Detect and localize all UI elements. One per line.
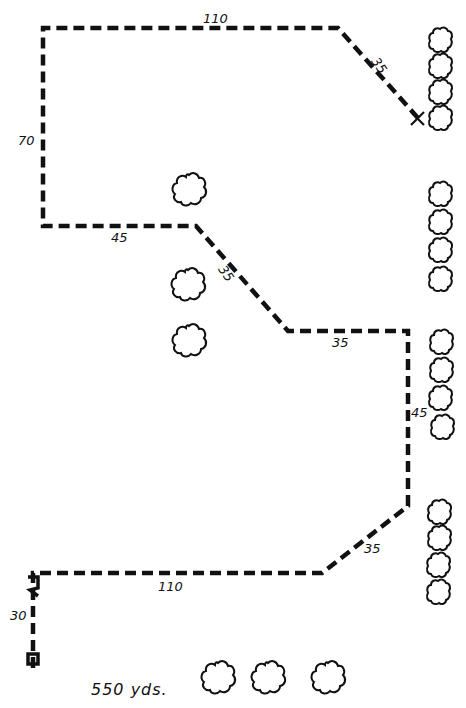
- tree-icon: [429, 182, 452, 207]
- segment-label-5: 35: [332, 335, 349, 350]
- tree-icon: [428, 500, 451, 525]
- tree-icon: [429, 210, 452, 235]
- tree-group-right-bottom: [427, 500, 451, 605]
- segment-label-9: 110: [203, 11, 228, 26]
- tree-icon: [429, 267, 452, 292]
- segment-label-3: 35: [364, 541, 381, 556]
- x-mark-icon: [411, 112, 424, 125]
- segment-label-8: 70: [18, 133, 35, 148]
- segment-label-7: 45: [111, 230, 128, 245]
- segment-label-2: 110: [158, 579, 183, 594]
- route-diagram: [0, 0, 466, 708]
- segment-label-4: 45: [411, 405, 428, 420]
- tree-icon: [431, 415, 454, 440]
- tree-icon: [252, 661, 286, 693]
- tree-icon: [430, 330, 453, 355]
- segment-label-1: 30: [10, 608, 27, 623]
- tree-icon: [429, 80, 452, 105]
- tree-icon: [429, 54, 452, 79]
- tree-icon: [428, 526, 451, 551]
- tree-group-right-lower-middle: [429, 330, 454, 440]
- tree-icon: [430, 358, 453, 383]
- tree-icon: [202, 661, 236, 693]
- tree-icon: [427, 553, 450, 578]
- tree-group-right-top: [429, 28, 452, 131]
- tree-icon: [173, 324, 207, 356]
- total-distance-label: 550 yds.: [91, 680, 168, 699]
- tree-group-right-upper-middle: [429, 182, 452, 292]
- route-path: [33, 28, 418, 668]
- tree-icon: [172, 268, 206, 300]
- tree-group-left-middle: [172, 173, 207, 356]
- tree-group-bottom-row: [202, 661, 346, 693]
- tree-icon: [427, 580, 450, 605]
- tree-icon: [429, 106, 452, 131]
- tree-icon: [429, 28, 452, 53]
- tree-icon: [429, 386, 452, 411]
- tree-icon: [173, 173, 207, 205]
- tree-icon: [312, 661, 346, 693]
- tree-icon: [429, 238, 452, 263]
